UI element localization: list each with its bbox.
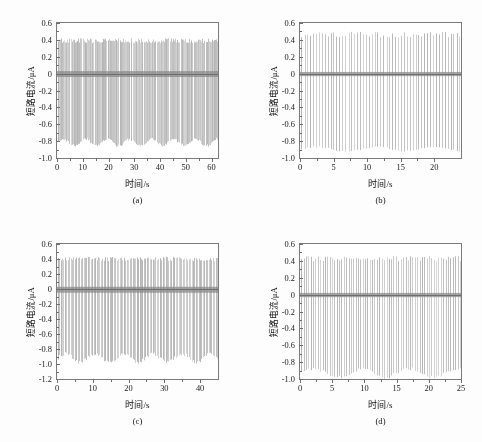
x-tick-label: 0	[55, 163, 59, 172]
y-tick	[56, 57, 60, 58]
y-tick	[56, 289, 60, 290]
y-minor-tick	[299, 320, 302, 321]
y-minor-tick	[299, 116, 302, 117]
x-tick	[434, 158, 435, 162]
x-axis-title: 时间/s	[368, 177, 392, 190]
y-tick	[56, 40, 60, 41]
plot-area	[57, 23, 218, 158]
y-minor-tick	[299, 371, 302, 372]
figure-subplot-grid: 0.60.40.20-0.2-0.4-0.6-0.8-1.00102030405…	[0, 0, 482, 442]
x-tick	[364, 379, 365, 383]
y-tick-label: -0.6	[269, 341, 295, 350]
y-tick-label: -0.6	[26, 120, 52, 129]
x-tick-label: 50	[182, 163, 190, 172]
x-tick-label: 10	[360, 384, 368, 393]
y-tick	[299, 261, 303, 262]
x-tick	[160, 158, 161, 162]
subplot-a: 0.60.40.20-0.2-0.4-0.6-0.8-1.00102030405…	[0, 0, 241, 221]
y-tick-label: 0.4	[269, 35, 295, 44]
y-tick-label: 0.6	[269, 240, 295, 249]
y-tick	[299, 312, 303, 313]
y-tick	[299, 244, 303, 245]
data-trace	[57, 244, 218, 379]
y-tick-label: 0.2	[26, 270, 52, 279]
x-minor-tick	[70, 158, 71, 161]
x-tick-label: 10	[363, 163, 371, 172]
x-minor-tick	[413, 379, 414, 382]
plot-area	[57, 244, 218, 379]
y-minor-tick	[299, 303, 302, 304]
y-minor-tick	[299, 48, 302, 49]
y-minor-tick	[299, 65, 302, 66]
x-minor-tick	[381, 379, 382, 382]
y-minor-tick	[56, 327, 59, 328]
y-tick-label: 0.2	[269, 52, 295, 61]
y-axis-title: 短路电流/μA	[267, 65, 279, 117]
x-tick-label: 25	[457, 384, 465, 393]
y-tick	[299, 328, 303, 329]
x-tick	[401, 158, 402, 162]
x-minor-tick	[199, 158, 200, 161]
y-tick	[56, 319, 60, 320]
x-tick-label: 40	[156, 163, 164, 172]
y-minor-tick	[299, 150, 302, 151]
y-minor-tick	[56, 48, 59, 49]
y-minor-tick	[56, 372, 59, 373]
y-tick-label: 0.2	[26, 52, 52, 61]
plot-frame-c	[56, 243, 219, 380]
x-minor-tick	[147, 158, 148, 161]
y-tick-label: 0.6	[26, 240, 52, 249]
y-tick	[299, 345, 303, 346]
x-tick-label: 30	[160, 384, 168, 393]
x-minor-tick	[316, 379, 317, 382]
y-tick-label: -1.0	[26, 360, 52, 369]
subplot-b: 0.60.40.20-0.2-0.4-0.6-0.8-1.005101520短路…	[241, 0, 482, 221]
y-minor-tick	[56, 297, 59, 298]
y-tick-label: 0.6	[269, 19, 295, 28]
y-tick	[299, 57, 303, 58]
y-tick	[299, 295, 303, 296]
y-tick	[56, 91, 60, 92]
y-tick-label: -0.6	[269, 120, 295, 129]
y-tick-label: -1.0	[269, 375, 295, 384]
x-tick-label: 0	[55, 384, 59, 393]
y-tick-label: -1.0	[26, 154, 52, 163]
x-minor-tick	[317, 158, 318, 161]
x-tick	[300, 158, 301, 162]
y-axis-title: 短路电流/μA	[267, 286, 279, 338]
subplot-label: (b)	[375, 195, 385, 205]
x-tick	[83, 158, 84, 162]
y-tick-label: -0.8	[269, 358, 295, 367]
x-axis-title: 时间/s	[125, 177, 149, 190]
y-tick	[56, 349, 60, 350]
x-tick	[57, 158, 58, 162]
x-tick	[429, 379, 430, 383]
y-tick	[56, 23, 60, 24]
subplot-d: 0.60.40.20-0.2-0.4-0.6-0.8-1.00510152025…	[241, 221, 482, 442]
y-minor-tick	[56, 31, 59, 32]
x-tick-label: 5	[331, 163, 335, 172]
y-tick	[56, 259, 60, 260]
x-tick-label: 20	[124, 384, 132, 393]
y-minor-tick	[299, 252, 302, 253]
y-tick-label: 0.2	[269, 273, 295, 282]
x-tick-label: 5	[330, 384, 334, 393]
subplot-c: 0.60.40.20-0.2-0.4-0.6-0.8-1.0-1.2010203…	[0, 221, 241, 442]
x-minor-tick	[121, 158, 122, 161]
y-tick-label: -1.2	[26, 375, 52, 384]
x-minor-tick	[146, 379, 147, 382]
y-minor-tick	[299, 269, 302, 270]
x-tick-label: 20	[104, 163, 112, 172]
x-minor-tick	[182, 379, 183, 382]
y-minor-tick	[56, 282, 59, 283]
y-tick-label: 0.4	[269, 256, 295, 265]
y-tick	[299, 23, 303, 24]
y-tick	[299, 362, 303, 363]
x-minor-tick	[350, 158, 351, 161]
data-trace	[300, 23, 461, 158]
x-tick	[57, 379, 58, 383]
y-tick-label: -0.8	[26, 137, 52, 146]
x-tick	[134, 158, 135, 162]
y-tick	[56, 364, 60, 365]
x-tick-label: 15	[392, 384, 400, 393]
